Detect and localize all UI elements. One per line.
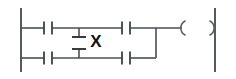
ladder-logic-diagram: X (0, 0, 236, 79)
coil-left-paren (181, 21, 185, 35)
contact-top-left[interactable] (44, 22, 52, 35)
ladder-diagram-canvas: X (0, 0, 236, 79)
coil-right-paren (210, 21, 214, 35)
contact-bottom-left[interactable] (44, 52, 52, 65)
output-coil[interactable] (181, 21, 214, 35)
contact-bottom-right[interactable] (122, 52, 130, 65)
contact-top-right[interactable] (122, 22, 130, 35)
vertical-contact-element[interactable] (72, 37, 86, 49)
branch-symbol-label: X (90, 32, 102, 51)
